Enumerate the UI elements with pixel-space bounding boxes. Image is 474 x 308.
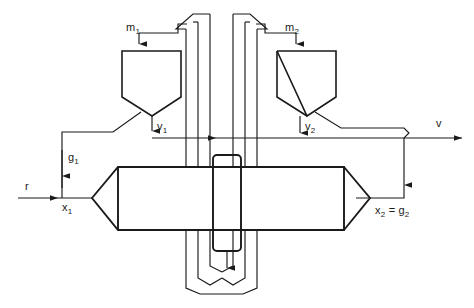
label-recycle-left: g1: [68, 152, 79, 166]
bottom-return-loop: [186, 249, 257, 294]
hopper-right-branch: [315, 112, 398, 128]
hopper-right: [277, 51, 336, 116]
main-vessel: [92, 167, 370, 230]
label-input-stream: r: [25, 181, 29, 192]
label-valve-left: v1: [157, 121, 167, 135]
label-state-right: x2 = g2: [375, 205, 410, 219]
label-valve-right: v2: [305, 121, 315, 135]
agitator-block: [213, 155, 241, 251]
label-hopper-right-feed: m2: [285, 22, 299, 36]
header-to-vessel-right: [356, 185, 404, 198]
label-state-left: x1: [62, 202, 72, 216]
hopper-left: [122, 51, 181, 116]
hopper-left-recycle-branch: [62, 112, 141, 188]
label-hopper-left-feed: m1: [126, 22, 140, 36]
process-flow-diagram: m1 m2 v1 v2 v r g1 x1 x2 = g2: [0, 0, 474, 308]
label-output-stream: v: [436, 118, 442, 129]
header-crossover-jump: [398, 128, 409, 138]
riser-pipe-right: [233, 14, 267, 274]
